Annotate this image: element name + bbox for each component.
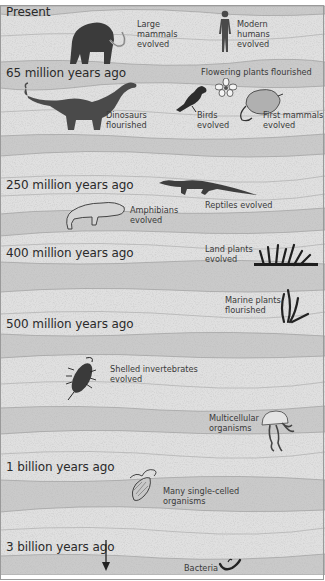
event-amphibians: Amphibians evolved [130,205,178,225]
trilobite-icon [64,354,100,400]
amphibian-icon [62,197,128,231]
event-large-mammals: Large mammals evolved [137,19,178,49]
time-label-500mya: 500 million years ago [6,317,134,331]
time-label-65mya: 65 million years ago [6,66,126,80]
protist-icon [128,466,164,502]
event-bacteria: Bacteria [184,563,218,573]
human-icon [217,10,233,54]
event-land-plants: Land plants evolved [205,244,253,264]
time-label-400mya: 400 million years ago [6,246,134,260]
arrow-down-icon [101,540,111,572]
seaweed-icon [276,288,310,324]
time-label-3bya: 3 billion years ago [6,540,114,554]
event-birds: Birds evolved [197,110,229,130]
jellyfish-icon [258,409,296,453]
strata-diagram: Present 65 million years ago 250 million… [0,0,325,581]
event-reptiles: Reptiles evolved [205,200,272,210]
time-label-present: Present [6,5,50,19]
bacteria-icon [218,556,242,572]
event-multicellular: Multicellular organisms [209,413,259,433]
flower-icon [215,78,237,98]
event-flowering-plants: Flowering plants flourished [201,67,312,77]
event-modern-humans: Modern humans evolved [237,19,270,49]
land-plant-icon [254,241,318,267]
reptile-icon [157,175,259,197]
time-label-250mya: 250 million years ago [6,178,134,192]
event-first-mammals: First mammals evolved [263,110,323,130]
time-label-1bya: 1 billion years ago [6,460,114,474]
event-dinosaurs: Dinosaurs flourished [106,110,147,130]
mammoth-icon [66,20,126,66]
event-shelled-invertebrates: Shelled invertebrates evolved [110,364,198,384]
event-single-celled: Many single-celled organisms [163,486,239,506]
event-marine-plants: Marine plants flourished [225,295,281,315]
